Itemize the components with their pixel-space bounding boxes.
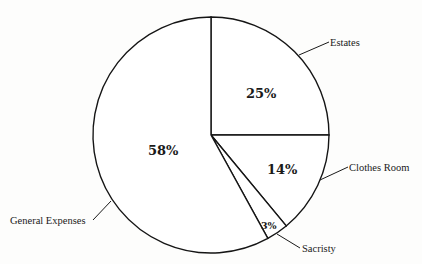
pie-chart: 25% 14% 3% 58% Estates Clothes Room Sacr… xyxy=(0,0,422,264)
label-clothes-room: Clothes Room xyxy=(349,162,409,173)
leader-line-sacristy xyxy=(277,234,300,248)
slice-percent-clothes-room: 14% xyxy=(267,162,298,177)
leader-line-general-expenses xyxy=(93,201,111,220)
slice-percent-sacristy: 3% xyxy=(261,220,277,231)
label-sacristy: Sacristy xyxy=(302,243,337,254)
slice-percent-general-expenses: 58% xyxy=(148,143,179,158)
label-estates: Estates xyxy=(330,37,360,48)
pie-slice-estates xyxy=(211,17,329,135)
slice-percent-estates: 25% xyxy=(246,86,277,101)
pie-slices xyxy=(93,17,329,253)
leader-line-estates xyxy=(299,42,329,55)
label-general-expenses: General Expenses xyxy=(10,215,86,226)
